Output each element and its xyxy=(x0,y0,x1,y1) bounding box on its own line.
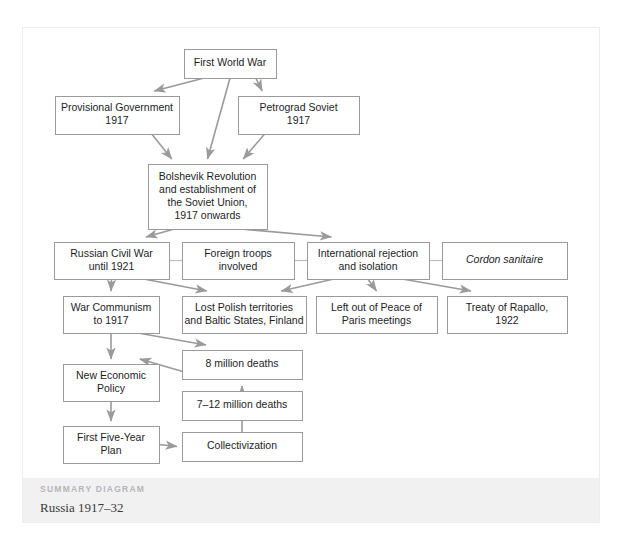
flow-edge-civilwar-to-warcomm xyxy=(111,279,112,291)
flow-edge-warcomm-to-deaths8 xyxy=(138,333,206,345)
flow-node-label: First World War xyxy=(194,56,267,68)
flow-node-label: New Economic xyxy=(76,369,146,381)
flow-node-collect: Collectivization xyxy=(183,433,303,462)
flow-node-lostpolish: Lost Polish territoriesand Baltic States… xyxy=(183,297,307,334)
flow-node-label: Lost Polish territories xyxy=(195,301,293,313)
flow-node-label: 1922 xyxy=(495,314,519,326)
flow-node-label: and Baltic States, Finland xyxy=(184,314,303,326)
flow-node-label: Bolshevik Revolution xyxy=(159,170,257,182)
flow-node-label: First Five-Year xyxy=(77,431,145,443)
flow-node-label: 1917 xyxy=(105,114,129,126)
flow-node-cordon: Cordon sanitaire xyxy=(443,243,568,280)
flowchart-svg: First World WarProvisional Government191… xyxy=(23,28,599,478)
flow-node-nep: New EconomicPolicy xyxy=(64,365,160,402)
flow-node-label: Plan xyxy=(100,444,121,456)
flow-node-label: 7–12 million deaths xyxy=(197,398,287,410)
flow-edge-bolshevik-to-civilwar xyxy=(146,229,174,237)
summary-title: Russia 1917–32 xyxy=(40,501,582,514)
flow-node-label: 8 million deaths xyxy=(206,357,279,369)
flow-node-label: 1917 onwards xyxy=(175,209,241,221)
diagram-canvas: First World WarProvisional Government191… xyxy=(23,28,599,478)
flow-edge-wwi-to-provgov xyxy=(154,78,204,91)
summary-kicker: SUMMARY DIAGRAM xyxy=(40,485,582,494)
flow-node-label: Russian Civil War xyxy=(70,247,153,259)
flow-edge-wwi-to-bolshevik xyxy=(208,78,231,159)
flow-edge-civilwar-to-lostpolish xyxy=(144,279,207,291)
flow-node-intreject: International rejectionand isolation xyxy=(308,243,430,280)
flow-node-label: involved xyxy=(219,260,258,272)
flow-node-label: War Communism xyxy=(71,301,152,313)
flow-node-label: Paris meetings xyxy=(342,314,411,326)
flow-node-foreign: Foreign troopsinvolved xyxy=(183,243,295,280)
flow-edge-fiveyear-to-collect xyxy=(159,445,177,447)
flow-node-label: and establishment of xyxy=(159,183,256,195)
flow-node-label: 1917 xyxy=(287,114,311,126)
flow-node-label: Foreign troops xyxy=(204,247,272,259)
summary-diagram-panel: First World WarProvisional Government191… xyxy=(22,27,600,523)
flow-edge-intreject-to-rapallo xyxy=(402,279,471,291)
flow-node-deaths8: 8 million deaths xyxy=(183,351,303,380)
flow-edge-petsov-to-bolshevik xyxy=(243,134,264,159)
flow-node-wwi: First World War xyxy=(185,50,277,79)
flow-node-label: Cordon sanitaire xyxy=(466,253,543,265)
flow-node-label: to 1917 xyxy=(93,314,128,326)
flow-node-label: and isolation xyxy=(339,260,398,272)
flow-node-label: Left out of Peace of xyxy=(331,301,422,313)
flow-node-fiveyear: First Five-YearPlan xyxy=(64,427,160,464)
flow-node-rapallo: Treaty of Rapallo,1922 xyxy=(448,297,568,334)
flow-node-leftout: Left out of Peace ofParis meetings xyxy=(317,297,438,334)
flow-node-deaths712: 7–12 million deaths xyxy=(183,392,303,421)
page-root: First World WarProvisional Government191… xyxy=(0,0,623,552)
flow-node-label: Provisional Government xyxy=(61,101,173,113)
flow-node-label: the Soviet Union, xyxy=(168,196,248,208)
flow-node-civilwar: Russian Civil Waruntil 1921 xyxy=(55,243,170,280)
flow-node-provgov: Provisional Government1917 xyxy=(56,97,180,135)
flow-node-label: Treaty of Rapallo, xyxy=(466,301,548,313)
flow-edge-provgov-to-bolshevik xyxy=(152,134,172,159)
node-layer: First World WarProvisional Government191… xyxy=(55,50,568,464)
flow-node-bolshevik: Bolshevik Revolutionand establishment of… xyxy=(149,165,268,230)
flow-edge-bolshevik-to-intreject xyxy=(241,229,332,237)
flow-node-label: International rejection xyxy=(318,247,419,259)
flow-node-warcomm: War Communismto 1917 xyxy=(64,297,160,334)
summary-footer: SUMMARY DIAGRAM Russia 1917–32 xyxy=(23,478,599,522)
flow-edge-intreject-to-lostpolish xyxy=(281,279,334,291)
flow-edge-wwi-to-petsov xyxy=(256,78,262,91)
flow-node-petsov: Petrograd Soviet1917 xyxy=(239,97,360,135)
flow-node-label: until 1921 xyxy=(89,260,135,272)
flow-node-label: Collectivization xyxy=(207,439,277,451)
flow-edge-intreject-to-leftout xyxy=(368,279,377,291)
flow-node-label: Petrograd Soviet xyxy=(259,101,337,113)
flow-node-label: Policy xyxy=(97,382,126,394)
